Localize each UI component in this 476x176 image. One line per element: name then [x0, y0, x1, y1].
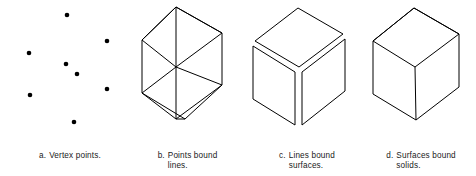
vertex-point [64, 62, 69, 67]
cube-face-left [253, 46, 295, 125]
solid-cube-illustration [366, 0, 476, 136]
panel-b-caption-label: b. [158, 151, 165, 162]
cube-internal-edge-lower-right [176, 67, 222, 85]
panel-b-caption-text: Points bound lines. [168, 151, 218, 172]
cube-internal-edge-left [142, 40, 176, 67]
panel-d-caption: d.Surfaces bound solids. [366, 140, 476, 172]
cube-internal-edge-lower-left [142, 67, 176, 93]
vertex-point [65, 13, 70, 18]
figure-panel-d: d.Surfaces bound solids. [366, 0, 476, 176]
cube-bottom-edge-right [176, 85, 222, 119]
solid-cube-top-edge-front-right [415, 34, 459, 67]
cube-bottom-edge-left [142, 93, 176, 119]
wireframe-cube-illustration [130, 0, 245, 136]
vertex-point [28, 93, 33, 98]
panel-d-caption-text: Surfaces bound solids. [396, 151, 455, 172]
vertex-point [105, 39, 110, 44]
panel-c-caption-text: Lines bound surfaces. [289, 151, 335, 172]
vertex-point-group [27, 13, 110, 125]
vertex-points-illustration [0, 0, 140, 136]
panel-a-caption-label: a. [39, 151, 46, 162]
panel-b-caption: b.Points bound lines. [130, 140, 245, 172]
vertex-point [72, 120, 77, 125]
panel-c-caption: c.Lines bound surfaces. [248, 140, 366, 172]
cube-face-top [255, 8, 343, 67]
cube-top-face-edge-left [142, 7, 176, 40]
figure-panel-c: c.Lines bound surfaces. [248, 0, 366, 176]
solid-cube-top-edge-left [373, 8, 414, 41]
panel-a-caption-text: Vertex points. [49, 151, 101, 162]
topology-progression-figure: a.Vertex points. b.Points bound line [0, 0, 476, 176]
cube-face-right [302, 39, 345, 125]
vertex-point [105, 87, 110, 92]
panel-c-caption-label: c. [279, 151, 286, 162]
figure-panel-a: a.Vertex points. [0, 0, 140, 176]
exploded-cube-faces-illustration [248, 0, 366, 136]
panel-d-caption-label: d. [386, 151, 393, 162]
solid-cube-front-vertical-edge [415, 67, 416, 120]
solid-cube-top-edge-front-left [373, 41, 415, 67]
vertex-point [75, 72, 80, 77]
figure-panel-b: b.Points bound lines. [130, 0, 245, 176]
cube-internal-edge-right [176, 33, 222, 67]
vertex-point [27, 51, 32, 56]
solid-cube-top-edge-right [414, 8, 459, 34]
panel-a-caption: a.Vertex points. [0, 140, 140, 161]
cube-top-face-edge-right [176, 7, 222, 33]
